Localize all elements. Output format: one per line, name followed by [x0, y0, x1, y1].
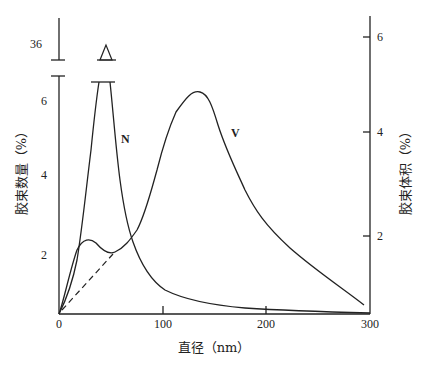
- chart-canvas: 36 6 4 2 6 4 2 0 100 200 300 直径（nm） 胶束数量…: [0, 0, 430, 368]
- y-left-axis-title: 胶束数量（%）: [14, 125, 29, 215]
- x-tick-label-0: 0: [56, 317, 62, 331]
- y-left-break-label: 36: [30, 37, 42, 51]
- break-triangle-icon: [100, 45, 112, 60]
- dashed-baseline: [62, 254, 113, 310]
- y-left-tick-4: 4: [41, 168, 47, 182]
- x-tick-label-300: 300: [361, 317, 379, 331]
- series-n-label: N: [121, 132, 130, 146]
- y-right-tick-4: 4: [377, 125, 383, 139]
- y-left-tick-6: 6: [41, 94, 47, 108]
- x-tick-label-200: 200: [257, 317, 275, 331]
- series-n-curve: [59, 82, 370, 314]
- series-v-label: V: [231, 126, 240, 140]
- y-left-tick-2: 2: [41, 248, 47, 262]
- y-right-tick-6: 6: [377, 30, 383, 44]
- series-v-curve: [59, 92, 364, 314]
- x-tick-label-100: 100: [154, 317, 172, 331]
- y-right-tick-2: 2: [377, 229, 383, 243]
- y-right-axis-title: 胶束体积（%）: [398, 125, 413, 215]
- x-axis-title: 直径（nm）: [178, 340, 251, 355]
